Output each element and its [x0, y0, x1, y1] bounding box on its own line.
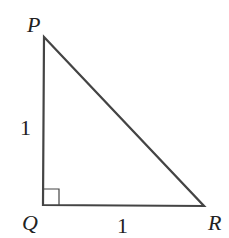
triangle-diagram: P 1 Q 1 R: [0, 0, 229, 238]
triangle-pqr: [43, 37, 204, 206]
vertex-label-r: R: [207, 210, 222, 235]
right-angle-marker: [43, 189, 59, 205]
side-label-pq: 1: [20, 115, 31, 140]
side-label-qr: 1: [117, 213, 128, 238]
vertex-label-p: P: [26, 12, 40, 37]
vertex-label-q: Q: [22, 210, 38, 235]
